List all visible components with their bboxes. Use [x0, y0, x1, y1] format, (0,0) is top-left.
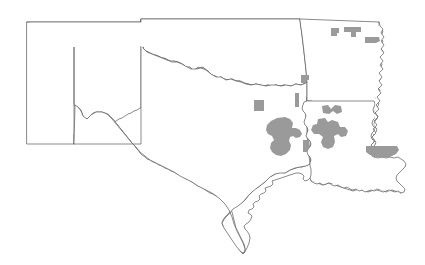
south-central-us-map — [0, 0, 425, 265]
state-outlines-layer — [27, 19, 406, 254]
highlight-northeast-arkansas[interactable] — [365, 37, 380, 43]
highlight-east-texas-sliver[interactable] — [295, 93, 299, 107]
map-container: South-Central United States County Highl… — [0, 0, 425, 265]
highlight-north-texas-square[interactable] — [254, 100, 264, 111]
